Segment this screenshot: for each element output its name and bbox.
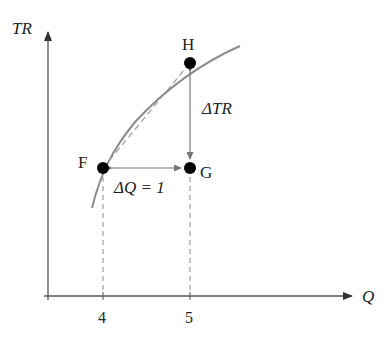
point-f-label: F: [78, 153, 87, 172]
point-f: [97, 162, 109, 174]
delta-q-label: ΔQ = 1: [113, 178, 165, 197]
y-axis-label: TR: [12, 19, 32, 38]
point-h-label: H: [182, 35, 194, 54]
x-tick-label-4: 4: [98, 309, 106, 326]
x-axis-label: Q: [362, 287, 374, 306]
tr-diagram: TR Q 4 5 H F G ΔTR ΔQ = 1: [0, 0, 392, 343]
delta-tr-label: ΔTR: [201, 99, 232, 118]
x-tick-label-5: 5: [185, 309, 193, 326]
chord-fh: [103, 63, 190, 168]
point-h: [184, 57, 196, 69]
point-g: [184, 162, 196, 174]
point-g-label: G: [200, 163, 212, 182]
